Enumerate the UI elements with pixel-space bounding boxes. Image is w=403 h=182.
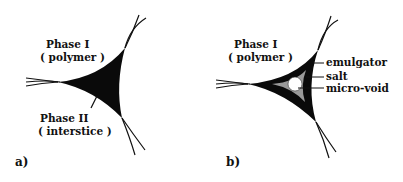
callout-emulgator: emulgator [326, 56, 387, 68]
phase2-title-a: Phase II [40, 112, 88, 124]
phase1-title-a: Phase I [46, 38, 90, 50]
panel-label-b: b) [226, 155, 240, 169]
phase2-pointer [91, 96, 97, 108]
panel-b: Phase I ( polymer ) emulgator salt micro… [216, 16, 389, 169]
phase1-sub-b: ( polymer ) [228, 51, 293, 63]
panel-label-a: a) [15, 155, 28, 169]
diagram-canvas: Phase I ( polymer ) Phase II ( interstic… [0, 0, 403, 182]
micro-void [288, 77, 302, 91]
phase1-title-b: Phase I [234, 38, 278, 50]
phase2-sub-a: ( interstice ) [38, 125, 112, 137]
panel-a: Phase I ( polymer ) Phase II ( interstic… [15, 15, 146, 169]
phase1-sub-a: ( polymer ) [40, 51, 105, 63]
callout-micro-void: micro-void [326, 82, 389, 94]
callout-salt: salt [326, 70, 348, 82]
